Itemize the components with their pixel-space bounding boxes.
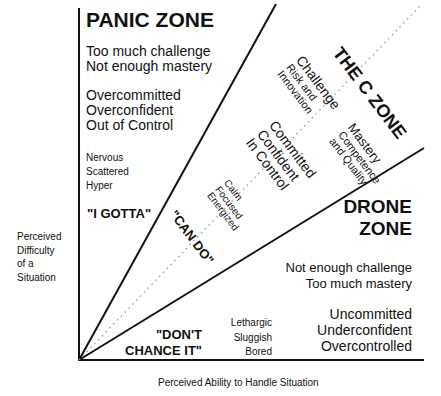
- panic-feeling: Hyper: [86, 179, 129, 193]
- drone-trait: Overcontrolled: [317, 338, 412, 354]
- y-axis-label-line: Difficulty: [17, 244, 61, 258]
- panic-feeling: Scattered: [86, 165, 129, 179]
- panic-line: Not enough mastery: [86, 59, 212, 74]
- drone-zone-title: DRONE ZONE: [343, 196, 412, 240]
- drone-zone-traits: Uncommitted Underconfident Overcontrolle…: [317, 306, 412, 354]
- panic-zone-feelings: Nervous Scattered Hyper: [86, 151, 129, 193]
- drone-zone-feelings: Lethargic Sluggish Bored: [231, 316, 272, 360]
- y-axis-label-line: Perceived: [17, 230, 61, 244]
- drone-quote-line: "DON'T: [116, 327, 202, 343]
- drone-trait: Uncommitted: [317, 306, 412, 322]
- panic-line: Too much challenge: [86, 44, 212, 59]
- panic-feeling: Nervous: [86, 151, 129, 165]
- y-axis-label-line: of a: [17, 257, 61, 271]
- drone-feeling: Sluggish: [231, 331, 272, 346]
- panic-trait: Out of Control: [86, 118, 181, 133]
- drone-quote-line: CHANCE IT": [116, 343, 202, 359]
- panic-zone-title: PANIC ZONE: [86, 9, 214, 32]
- panic-zone-traits: Overcommitted Overconfident Out of Contr…: [86, 88, 181, 133]
- drone-feeling: Bored: [231, 345, 272, 360]
- drone-zone-description: Not enough challenge Too much mastery: [286, 260, 413, 293]
- panic-trait: Overcommitted: [86, 88, 181, 103]
- drone-zone-title-line: DRONE: [343, 196, 412, 218]
- y-axis-label-line: Situation: [17, 271, 61, 285]
- panic-zone-quote: "I GOTTA": [87, 207, 151, 221]
- drone-line: Too much mastery: [286, 276, 413, 292]
- drone-line: Not enough challenge: [286, 260, 413, 276]
- y-axis-label: Perceived Difficulty of a Situation: [17, 230, 61, 284]
- drone-feeling: Lethargic: [231, 316, 272, 331]
- panic-trait: Overconfident: [86, 103, 181, 118]
- drone-zone-title-line: ZONE: [343, 218, 412, 240]
- x-axis-label: Perceived Ability to Handle Situation: [158, 378, 319, 389]
- drone-trait: Underconfident: [317, 322, 412, 338]
- panic-zone-description: Too much challenge Not enough mastery: [86, 44, 212, 74]
- drone-zone-quote: "DON'T CHANCE IT": [116, 327, 202, 358]
